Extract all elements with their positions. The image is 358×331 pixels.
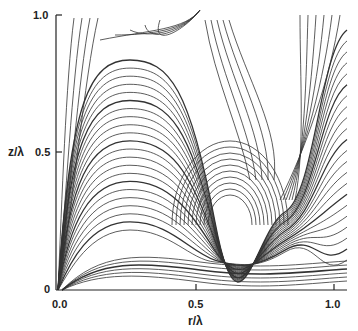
x-axis-label: r/λ	[188, 314, 203, 328]
y-tick-label-bottom: 0	[44, 283, 50, 295]
x-tick-label-1: 1.0	[325, 298, 340, 310]
x-tick-label-0: 0.0	[52, 298, 67, 310]
x-tick-label-0.5: 0.5	[188, 298, 203, 310]
y-tick-label-mid: 0.5	[35, 146, 50, 158]
y-tick-label-top: 1.0	[33, 9, 48, 21]
streamlines	[58, 10, 347, 290]
streamline-plot	[0, 0, 358, 331]
y-axis-label: z/λ	[8, 145, 24, 159]
